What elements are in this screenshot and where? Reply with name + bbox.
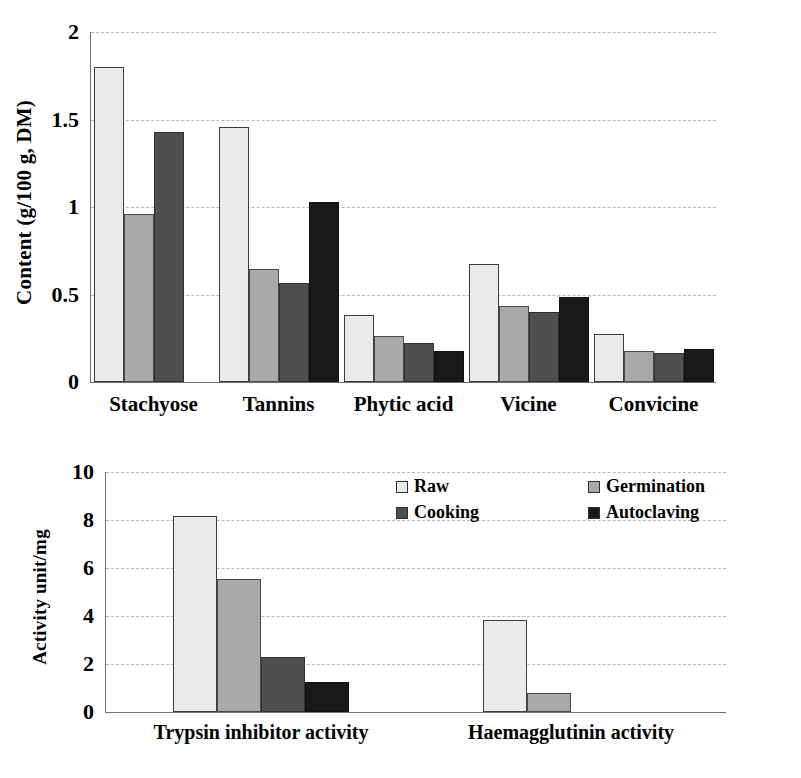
content-chart-y-tick: 0.5 — [37, 282, 79, 308]
bar-raw — [469, 264, 499, 382]
legend-item: Raw — [396, 476, 449, 497]
legend-item: Germination — [588, 476, 705, 497]
content-chart-x-tick: Convicine — [609, 392, 699, 417]
chart-legend: RawGerminationCookingAutoclaving — [396, 476, 726, 528]
bar-raw — [594, 334, 624, 382]
bar-autoclaving — [309, 202, 339, 382]
bar-germination — [624, 351, 654, 383]
content-chart-y-axis-label: Content (g/100 g, DM) — [12, 100, 37, 305]
bar-autoclaving — [305, 682, 349, 712]
activity-chart-panel: Activity unit/mg 0246810 Trypsin inhibit… — [0, 436, 801, 778]
bar-germination — [249, 269, 279, 382]
bar-raw — [483, 620, 527, 712]
legend-label: Cooking — [414, 502, 479, 523]
activity-chart-y-tick: 4 — [54, 603, 94, 629]
bar-raw — [344, 315, 374, 382]
content-chart-y-tick: 1.5 — [37, 107, 79, 133]
bar-raw — [219, 127, 249, 383]
content-chart-y-tick: 2 — [37, 19, 79, 45]
content-chart-x-tick: Tannins — [243, 392, 315, 417]
bar-cooking — [404, 343, 434, 382]
figure-root: Content (g/100 g, DM) 00.511.52 Stachyos… — [0, 0, 801, 778]
activity-chart-x-tick: Haemagglutinin activity — [468, 721, 674, 744]
bar-autoclaving — [559, 297, 589, 382]
legend-swatch-raw — [396, 481, 408, 493]
bar-germination — [499, 306, 529, 382]
activity-chart-y-tick: 0 — [54, 699, 94, 725]
content-chart-x-tick: Phytic acid — [354, 392, 454, 417]
bar-cooking — [529, 312, 559, 382]
legend-item: Autoclaving — [588, 502, 699, 523]
bar-raw — [94, 67, 124, 382]
activity-chart-y-tick: 10 — [54, 459, 94, 485]
content-chart-x-tick: Stachyose — [109, 392, 198, 417]
activity-chart-x-axis-line — [105, 712, 726, 713]
bar-germination — [527, 693, 571, 712]
bar-germination — [374, 336, 404, 382]
content-chart-panel: Content (g/100 g, DM) 00.511.52 Stachyos… — [0, 0, 801, 436]
bar-germination — [217, 579, 261, 712]
bar-germination — [124, 214, 154, 382]
bar-cooking — [654, 353, 684, 382]
activity-chart-y-tick: 6 — [54, 555, 94, 581]
content-chart-x-tick: Vicine — [500, 392, 556, 417]
content-chart-y-tick: 0 — [37, 369, 79, 395]
content-chart-plot-area — [91, 32, 716, 382]
activity-chart-y-tick: 2 — [54, 651, 94, 677]
bar-cooking — [154, 132, 184, 382]
legend-label: Germination — [606, 476, 705, 497]
legend-swatch-germination — [588, 481, 600, 493]
activity-chart-y-axis-label: Activity unit/mg — [29, 529, 51, 665]
legend-label: Raw — [414, 476, 449, 497]
legend-swatch-cooking — [396, 507, 408, 519]
content-chart-y-tick: 1 — [37, 194, 79, 220]
activity-chart-y-tick: 8 — [54, 507, 94, 533]
bar-cooking — [279, 283, 309, 382]
legend-item: Cooking — [396, 502, 479, 523]
bar-autoclaving — [434, 351, 464, 382]
bar-cooking — [261, 657, 305, 712]
bar-raw — [173, 516, 217, 712]
bar-autoclaving — [684, 349, 714, 382]
activity-chart-x-tick: Trypsin inhibitor activity — [154, 721, 369, 744]
content-chart-x-axis-line — [90, 382, 716, 383]
legend-swatch-autoclaving — [588, 507, 600, 519]
legend-label: Autoclaving — [606, 502, 699, 523]
